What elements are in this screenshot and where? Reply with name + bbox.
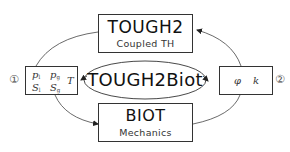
edge-right-to-tough2: [197, 30, 241, 66]
biot-module-box: BIOT Mechanics: [98, 103, 193, 142]
var-k: k: [253, 76, 259, 86]
var-phi: φ: [234, 76, 241, 86]
biot-subtitle: Mechanics: [119, 127, 172, 139]
left-variables-box: pl pg Sl Sg T: [25, 66, 78, 95]
var-p-g: pg: [50, 70, 60, 82]
biot-title: BIOT: [125, 107, 165, 125]
var-t: T: [67, 76, 74, 86]
edge-biot-to-right: [193, 95, 240, 124]
var-s-l: Sl: [32, 83, 41, 95]
edge-left-to-tough2: [36, 32, 98, 66]
tough2-module-box: TOUGH2 Coupled TH: [98, 14, 193, 53]
var-s-g: Sg: [50, 83, 60, 95]
tough2-title: TOUGH2: [108, 18, 184, 36]
tough2-subtitle: Coupled TH: [117, 38, 175, 50]
marker-1: ①: [9, 74, 19, 86]
edge-left-to-biot: [55, 95, 98, 124]
center-label: TOUGH2Biot: [86, 68, 204, 92]
var-p-l: pl: [32, 70, 40, 82]
right-variables-box: φ k: [219, 66, 273, 95]
marker-2: ②: [275, 74, 285, 86]
